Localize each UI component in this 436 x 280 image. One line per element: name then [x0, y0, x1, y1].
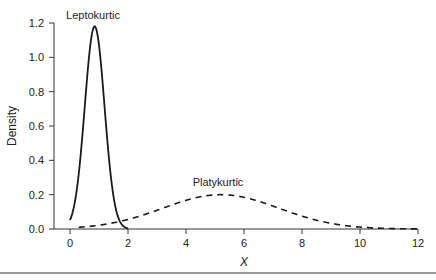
leptokurtic-label: Leptokurtic — [66, 9, 120, 21]
y-tick-label: 0.6 — [29, 120, 44, 132]
axes: 0.00.20.40.60.81.01.2024681012 — [29, 17, 424, 249]
y-tick-label: 1.2 — [29, 17, 44, 29]
platykurtic-label: Platykurtic — [193, 176, 244, 188]
y-tick-label: 0.2 — [29, 189, 44, 201]
y-axis-title: Density — [5, 106, 19, 146]
x-tick-label: 4 — [183, 237, 189, 249]
curves — [70, 27, 418, 229]
x-axis-title: X — [239, 255, 249, 269]
x-tick-label: 12 — [412, 237, 424, 249]
x-tick-label: 10 — [354, 237, 366, 249]
leptokurtic-curve — [70, 27, 128, 229]
y-tick-label: 1.0 — [29, 51, 44, 63]
x-tick-label: 6 — [241, 237, 247, 249]
platykurtic-curve — [79, 195, 418, 229]
x-tick-label: 2 — [125, 237, 131, 249]
y-tick-label: 0.4 — [29, 154, 44, 166]
y-tick-label: 0.0 — [29, 223, 44, 235]
kurtosis-chart: 0.00.20.40.60.81.01.2024681012 Leptokurt… — [0, 0, 436, 280]
x-tick-label: 8 — [299, 237, 305, 249]
x-tick-label: 0 — [67, 237, 73, 249]
y-tick-label: 0.8 — [29, 86, 44, 98]
